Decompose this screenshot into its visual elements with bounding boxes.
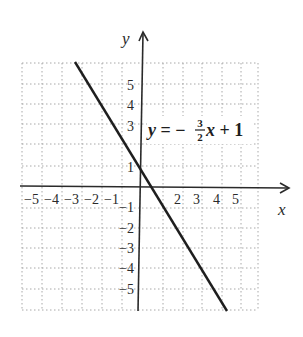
svg-text:−5: −5 xyxy=(119,282,134,297)
equation-label: y = − 3 2 x + 1 xyxy=(146,116,253,144)
svg-text:−1: −1 xyxy=(119,200,134,215)
svg-text:3: 3 xyxy=(127,119,134,134)
svg-text:2: 2 xyxy=(197,131,203,143)
coordinate-plane: y x −5 −4 −3 −2 −1 2 3 4 5 5 4 3 1 −1 −2… xyxy=(0,0,303,337)
svg-text:−3: −3 xyxy=(119,241,134,256)
svg-text:−1: −1 xyxy=(104,192,119,207)
svg-text:3: 3 xyxy=(197,117,203,129)
svg-text:y = −: y = − xyxy=(146,120,186,140)
y-axis-label: y xyxy=(120,29,130,48)
svg-text:5: 5 xyxy=(232,192,239,207)
svg-text:3: 3 xyxy=(193,192,200,207)
svg-text:−2: −2 xyxy=(84,192,99,207)
svg-text:4: 4 xyxy=(213,192,220,207)
svg-text:x + 1: x + 1 xyxy=(205,120,243,140)
svg-text:−5: −5 xyxy=(24,192,39,207)
svg-text:−4: −4 xyxy=(44,192,59,207)
axes xyxy=(20,32,289,311)
svg-text:2: 2 xyxy=(174,192,181,207)
svg-text:−4: −4 xyxy=(119,261,134,276)
svg-text:−3: −3 xyxy=(64,192,79,207)
svg-text:5: 5 xyxy=(127,78,134,93)
svg-text:1: 1 xyxy=(127,160,134,175)
x-axis-label: x xyxy=(277,200,286,219)
x-axis xyxy=(20,186,288,188)
svg-text:4: 4 xyxy=(127,98,134,113)
svg-text:−2: −2 xyxy=(119,221,134,236)
